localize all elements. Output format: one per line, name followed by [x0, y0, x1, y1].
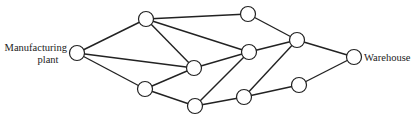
node-G — [237, 90, 252, 105]
node-D — [188, 99, 203, 114]
edge-E-H — [248, 14, 297, 40]
node-I — [292, 78, 307, 93]
edge-P-C — [77, 53, 194, 68]
sink-label: Warehouse — [364, 52, 411, 63]
edge-G-I — [244, 85, 299, 97]
source-label-line1: Manufacturing — [5, 42, 68, 53]
edge-I-W — [299, 57, 354, 85]
edges-group — [77, 14, 354, 106]
node-F — [242, 45, 257, 60]
node-C — [187, 61, 202, 76]
edge-A-E — [146, 14, 248, 19]
source-label-line2: plant — [38, 54, 59, 65]
edge-P-A — [77, 19, 146, 53]
node-E — [241, 7, 256, 22]
sink-node — [347, 50, 362, 65]
edge-P-B — [77, 53, 145, 89]
node-B — [138, 82, 153, 97]
node-A — [139, 12, 154, 27]
network-diagram: Manufacturing plant Warehouse — [0, 0, 415, 120]
source-node — [70, 46, 85, 61]
edge-H-W — [297, 40, 354, 57]
node-H — [290, 33, 305, 48]
nodes-group — [70, 7, 362, 114]
